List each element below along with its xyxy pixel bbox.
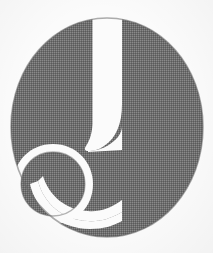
logo-ink — [0, 0, 213, 253]
logo-canvas: Stylized lowercase letter g logo — [0, 0, 213, 253]
logo-mark-g — [0, 0, 213, 253]
